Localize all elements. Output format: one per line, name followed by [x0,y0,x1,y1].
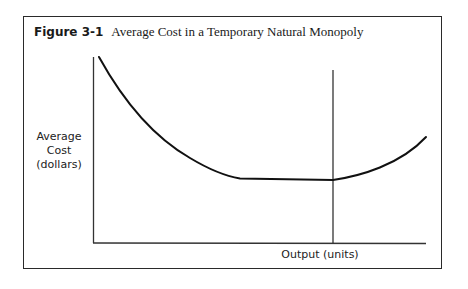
x-axis-label: Output (units) [255,248,385,261]
x-axis [93,243,426,244]
average-cost-curve [99,57,426,180]
plot-area [0,0,468,289]
